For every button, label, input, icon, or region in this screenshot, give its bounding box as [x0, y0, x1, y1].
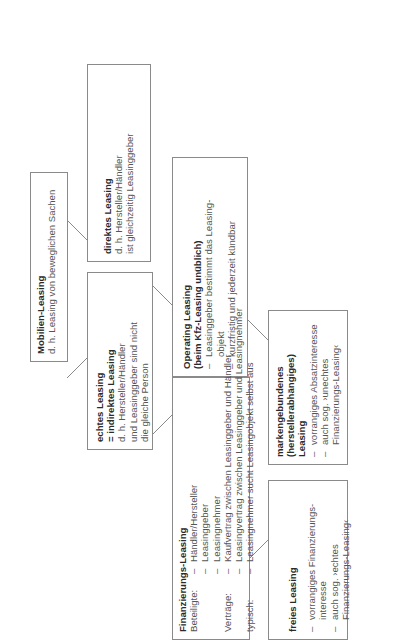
- freies-leasing-item: – auch sog. ›echtes Finanzierungs-Leasin…: [329, 488, 351, 632]
- markengebundenes-title-3: Leasing: [296, 318, 307, 457]
- row-item: Leasingnehmer: [211, 496, 222, 562]
- direktes-leasing-line-1: d. h. Hersteller/Händler: [113, 72, 124, 254]
- row-item: Leasinggeber: [199, 504, 210, 562]
- operating-leasing-title-2: (beim Kfz-Leasing unüblich): [192, 165, 203, 369]
- connector-root-direct: [67, 220, 87, 240]
- freies-leasing-title: freies Leasing: [287, 488, 298, 632]
- echtes-leasing-line-3: die gleiche Person: [139, 280, 150, 442]
- bullet-dash: –: [319, 445, 341, 457]
- freies-leasing-item-1-line-2: interesse: [317, 504, 328, 620]
- freies-leasing-item: – vorrangiges Finanzierungs- interesse: [306, 488, 328, 632]
- markengebundenes-item-1-line-1: vorrangiges Absatzinteresse: [308, 324, 319, 445]
- direktes-leasing-line-2: ist gleichzeitig Leasinggeber: [124, 72, 135, 254]
- row-item: Leasingnehmer sucht Leasingobjekt selbst…: [244, 363, 255, 562]
- leasing-diagram: Mobilien-Leasing d. h. Leasing von beweg…: [0, 0, 401, 640]
- bullet-dash: –: [211, 562, 222, 574]
- bullet-dash: –: [233, 562, 244, 574]
- direktes-leasing-title: direktes Leasing: [102, 72, 113, 254]
- bullet-dash: –: [308, 445, 319, 457]
- mobilien-leasing-desc: d. h. Leasing von beweglichen Sachen: [46, 180, 57, 354]
- finanzierungs-row-vertraege: Verträge: –Kaufvertrag zwischen Leasingg…: [222, 385, 244, 632]
- markengebundenes-item: – vorrangiges Absatzinteresse: [308, 318, 319, 457]
- row-item: Händler/Hersteller: [188, 485, 199, 562]
- finanzierungs-row-typisch: typisch: –Leasingnehmer sucht Leasingobj…: [244, 385, 255, 632]
- bullet-dash: –: [188, 562, 199, 574]
- row-item: Kaufvertrag zwischen Leasinggeber und Hä…: [222, 355, 233, 562]
- freies-leasing-item-2-line-2: Finanzierungs-Leasing‹: [340, 520, 351, 620]
- markengebundenes-item-2-line-2: Finanzierungs-Leasing‹: [330, 345, 341, 445]
- finanzierungs-leasing-title: Finanzierungs-Leasing: [177, 385, 188, 632]
- box-direktes-leasing: direktes Leasing d. h. Hersteller/Händle…: [87, 64, 151, 262]
- echtes-leasing-line-2: und Leasinggeber sind nicht: [128, 280, 139, 442]
- echtes-leasing-line-1: d. h. Hersteller/Händler: [116, 280, 127, 442]
- connector-genuine-operating: [152, 285, 172, 305]
- bullet-dash: –: [199, 562, 210, 574]
- echtes-leasing-title-2: = indirektes Leasing: [105, 280, 116, 442]
- bullet-dash: –: [329, 620, 351, 632]
- box-finanzierungs-leasing: Finanzierungs-Leasing Beteiligte: –Händl…: [172, 377, 250, 640]
- operating-leasing-title-1: Operating Leasing: [181, 165, 192, 369]
- bullet-dash: –: [306, 620, 328, 632]
- markengebundenes-item: – auch sog. ›unechtes Finanzierungs-Leas…: [319, 318, 341, 457]
- freies-leasing-item-1-line-1: vorrangiges Finanzierungs-: [306, 504, 317, 620]
- finanzierungs-row-beteiligte: Beteiligte: –Händler/Hersteller –Leasing…: [188, 385, 222, 632]
- box-markengebundenes-leasing: markengebundenes (herstellerabhängiges) …: [268, 310, 348, 465]
- echtes-leasing-title-1: echtes Leasing: [94, 280, 105, 442]
- operating-leasing-item-1-line-1: Leasinggeber bestimmt das Leasing-: [203, 200, 214, 357]
- markengebundenes-title-1: markengebundenes: [274, 318, 285, 457]
- connector-genuine-financing: [152, 415, 172, 435]
- row-label: Verträge:: [222, 574, 244, 632]
- connector-root-genuine: [67, 358, 87, 378]
- row-label: Beteiligte:: [188, 574, 222, 632]
- row-label: typisch:: [244, 574, 255, 632]
- row-item: Leasingvertrag zwischen Leasinggeber und…: [233, 308, 244, 562]
- box-echtes-leasing: echtes Leasing = indirektes Leasing d. h…: [87, 272, 153, 450]
- bullet-dash: –: [222, 562, 233, 574]
- markengebundenes-item-2-line-1: auch sog. ›unechtes: [319, 345, 330, 445]
- bullet-dash: –: [244, 562, 255, 574]
- box-mobilien-leasing: Mobilien-Leasing d. h. Leasing von beweg…: [30, 172, 68, 362]
- box-freies-leasing: freies Leasing – vorrangiges Finanzierun…: [268, 480, 348, 640]
- markengebundenes-title-2: (herstellerabhängiges): [285, 318, 296, 457]
- mobilien-leasing-title: Mobilien-Leasing: [35, 180, 46, 354]
- connector-financing-brand: [248, 320, 268, 340]
- freies-leasing-item-2-line-1: auch sog. ›echtes: [329, 520, 340, 620]
